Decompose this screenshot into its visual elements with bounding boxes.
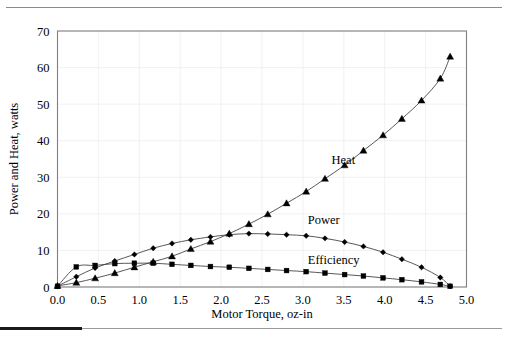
figure-container: 0.00.51.01.52.02.53.03.54.04.55.00102030… [0,0,508,338]
series-label-heat: Heat [332,153,356,167]
series-line [58,57,451,286]
x-tick-label: 3.5 [336,293,352,307]
series-markers [54,53,454,288]
y-tick-label: 40 [37,134,50,148]
x-tick-label: 4.5 [418,293,434,307]
footer-rule-dark [0,327,82,330]
y-tick-label: 0 [43,281,49,295]
series-markers [55,231,453,289]
x-tick-label: 1.5 [172,293,188,307]
y-tick-label: 70 [37,25,50,39]
y-tick-label: 60 [37,61,50,75]
y-tick-label: 50 [37,98,50,112]
x-tick-label: 3.0 [295,293,311,307]
y-tick-label: 20 [37,207,50,221]
x-tick-label: 1.0 [131,293,147,307]
y-tick-label: 30 [37,171,50,185]
x-tick-label: 4.0 [377,293,393,307]
series-layer [54,53,454,289]
series-annotations-layer: HeatPowerEfficiency [308,153,361,266]
x-tick-label: 0.5 [91,293,107,307]
series-heat [54,53,454,288]
series-label-efficiency: Efficiency [308,253,361,267]
footer-rule-light [82,328,502,329]
motor-performance-chart: 0.00.51.01.52.02.53.03.54.04.55.00102030… [0,0,508,338]
header-rule [6,7,502,8]
x-tick-label: 2.5 [254,293,270,307]
x-tick-label: 5.0 [459,293,475,307]
series-label-power: Power [308,213,341,227]
grid-layer [58,31,467,287]
x-tick-label: 2.0 [213,293,229,307]
y-tick-label: 10 [37,244,50,258]
x-tick-label: 0.0 [50,293,66,307]
y-axis-label: Power and Heat, watts [7,103,21,216]
x-axis-label: Motor Torque, oz-in [211,307,313,321]
series-power [55,231,453,289]
